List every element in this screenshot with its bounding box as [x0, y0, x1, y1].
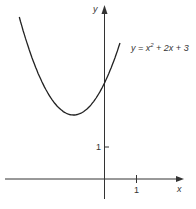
x-axis-label: x: [176, 184, 182, 194]
x-axis-arrow-icon: [176, 176, 184, 182]
parabola-chart: 1 1 x y y = x2 + 2x + 3: [0, 0, 196, 209]
x-tick-label-1: 1: [134, 185, 139, 195]
y-axis-label: y: [92, 4, 98, 14]
y-axis-arrow-icon: [102, 5, 108, 14]
y-tick-label-1: 1: [96, 142, 101, 152]
equation-annotation: y = x2 + 2x + 3: [130, 42, 189, 53]
